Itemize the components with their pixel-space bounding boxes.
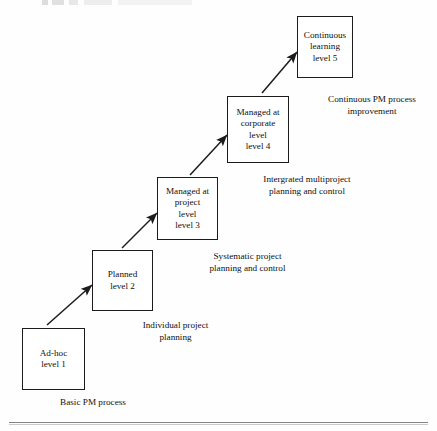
- page-bottom-rule: [9, 422, 428, 423]
- node-level-5-line-1: Continuous: [304, 30, 346, 41]
- node-level-3[interactable]: Managed at project level level 3: [157, 177, 218, 240]
- caption-level-5-line-2: improvement: [307, 106, 437, 118]
- node-level-5[interactable]: Continuous learning level 5: [297, 16, 353, 78]
- node-level-1[interactable]: Ad-hoc level 1: [22, 328, 85, 390]
- node-level-3-line-4: level 3: [175, 220, 200, 231]
- caption-level-2-line-1: Individual project: [113, 320, 238, 332]
- node-level-4-line-2: corporate: [241, 118, 276, 129]
- node-level-2[interactable]: Planned level 2: [92, 250, 153, 311]
- caption-level-4-line-2: planning and control: [237, 186, 377, 198]
- caption-level-1: Basic PM process: [33, 397, 153, 409]
- node-level-3-line-3: level: [179, 209, 197, 220]
- node-level-3-line-2: project: [175, 197, 201, 208]
- node-level-1-line-2: level 1: [41, 359, 66, 370]
- arrow-level4-to-level5: [262, 52, 297, 93]
- node-level-2-line-1: Planned: [108, 269, 138, 280]
- node-level-4-line-3: level: [249, 130, 267, 141]
- arrow-level1-to-level2: [47, 285, 92, 325]
- node-level-3-line-1: Managed at: [166, 186, 209, 197]
- node-level-4-line-4: level 4: [246, 141, 271, 152]
- node-level-5-line-2: learning: [310, 41, 340, 52]
- caption-level-3-line-1: Systematic project: [180, 251, 315, 263]
- node-level-1-line-1: Ad-hoc: [40, 348, 68, 359]
- node-level-5-line-3: level 5: [313, 53, 338, 64]
- caption-level-4-line-1: Intergrated multiproject: [237, 174, 377, 186]
- caption-level-2-line-2: planning: [113, 332, 238, 344]
- diagram-page: Continuous learning level 5 Continuous P…: [0, 0, 437, 431]
- caption-level-1-line-1: Basic PM process: [33, 397, 153, 409]
- caption-level-5: Continuous PM process improvement: [307, 94, 437, 118]
- arrow-level2-to-level3: [122, 213, 157, 248]
- node-level-2-line-2: level 2: [110, 281, 135, 292]
- node-level-4-line-1: Managed at: [236, 107, 279, 118]
- caption-level-2: Individual project planning: [113, 320, 238, 344]
- caption-level-4: Intergrated multiproject planning and co…: [237, 174, 377, 198]
- node-level-4[interactable]: Managed at corporate level level 4: [227, 96, 289, 163]
- caption-level-3: Systematic project planning and control: [180, 251, 315, 275]
- caption-level-5-line-1: Continuous PM process: [307, 94, 437, 106]
- caption-level-3-line-2: planning and control: [180, 263, 315, 275]
- page-bottom-rule-shadow: [9, 424, 428, 425]
- arrow-level3-to-level4: [190, 135, 227, 175]
